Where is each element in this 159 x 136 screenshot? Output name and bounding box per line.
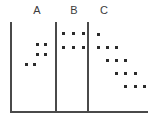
group-label-a: A [30, 5, 44, 16]
data-point [36, 43, 39, 46]
data-point [82, 46, 85, 49]
data-point [106, 46, 109, 49]
data-point [124, 59, 127, 62]
divider-left [10, 22, 12, 113]
data-point [72, 46, 75, 49]
data-point [44, 53, 47, 56]
data-point [44, 43, 47, 46]
data-point [115, 59, 118, 62]
dot-plot-figure: A B C [0, 0, 159, 136]
data-point [106, 59, 109, 62]
data-point [97, 46, 100, 49]
data-point [124, 85, 127, 88]
data-point [25, 63, 28, 66]
data-point [143, 85, 146, 88]
data-point [97, 33, 100, 36]
data-point [134, 72, 137, 75]
divider-middle [55, 22, 57, 113]
group-label-b: B [67, 5, 81, 16]
data-point [33, 63, 36, 66]
data-point [72, 32, 75, 35]
baseline-axis [10, 111, 148, 113]
data-point [115, 72, 118, 75]
data-point [82, 32, 85, 35]
divider-right [87, 22, 89, 113]
data-point [134, 85, 137, 88]
data-point [62, 46, 65, 49]
data-point [115, 46, 118, 49]
data-point [124, 72, 127, 75]
group-label-c: C [97, 5, 111, 16]
data-point [36, 53, 39, 56]
data-point [62, 32, 65, 35]
